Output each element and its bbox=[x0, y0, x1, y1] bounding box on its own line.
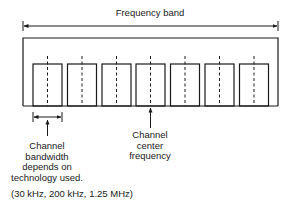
bandwidth-note-line: Channel bbox=[2, 141, 92, 152]
bandwidth-examples: (30 kHz, 200 kHz, 1.25 MHz) bbox=[11, 189, 133, 200]
center-note-line: Channel bbox=[110, 130, 190, 141]
channel-bandwidth-note: Channel bandwidth depends on technology … bbox=[2, 141, 92, 183]
bandwidth-note-line: depends on bbox=[2, 162, 92, 173]
frequency-band-label: Frequency band bbox=[100, 8, 200, 19]
band-span-arrow bbox=[23, 21, 278, 31]
center-note-line: frequency bbox=[110, 151, 190, 162]
bandwidth-marker bbox=[33, 112, 62, 136]
bandwidth-note-line: technology used. bbox=[2, 173, 92, 184]
channel-center-frequency-note: Channel center frequency bbox=[110, 130, 190, 162]
